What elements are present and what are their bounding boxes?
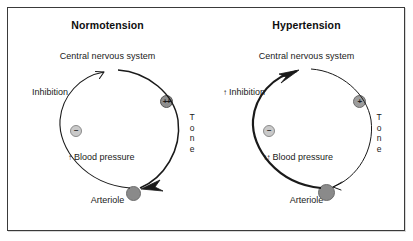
panel-hypertension: Hypertension Central nervous system Arte…: [207, 8, 406, 232]
loop-arcs-right: [207, 8, 406, 232]
panel-normotension: Normotension Central nervous system Arte…: [8, 8, 207, 232]
afferent-arc-right: [253, 71, 321, 188]
loop-arcs-left: [8, 8, 207, 232]
figure-frame: Normotension Central nervous system Arte…: [7, 7, 405, 231]
afferent-arc-left: [60, 72, 130, 188]
efferent-arc-left: [118, 70, 179, 188]
efferent-arc-right: [311, 69, 372, 187]
baroreflex-diagram-figure: Normotension Central nervous system Arte…: [0, 0, 413, 241]
efferent-arrowhead-right: [333, 182, 342, 190]
